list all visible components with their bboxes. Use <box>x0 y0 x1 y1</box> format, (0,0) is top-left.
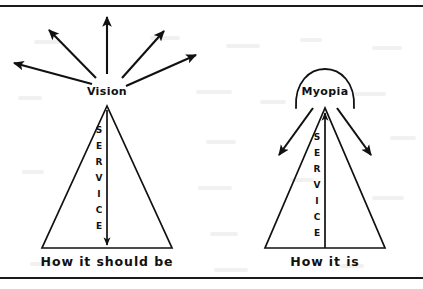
service-letter: I <box>315 196 318 206</box>
service-letter: E <box>96 221 102 231</box>
service-label-left: S E R V I C E <box>96 125 103 231</box>
vision-label: Vision <box>87 85 127 98</box>
myopia-label: Myopia <box>301 85 348 98</box>
panel-left: Vision S E R V I C E How it should be <box>14 17 196 269</box>
service-label-right: S E R V I C E <box>314 132 321 238</box>
service-letter: R <box>96 157 103 167</box>
service-letter: I <box>97 189 100 199</box>
service-letter: C <box>96 205 103 215</box>
panel-right: Myopia S E R V I C E How it is <box>265 69 385 269</box>
service-letter: V <box>96 173 103 183</box>
diagram-canvas: Vision S E R V I C E How it should be <box>0 0 423 289</box>
service-letter: E <box>314 148 320 158</box>
service-letter: C <box>314 212 321 222</box>
caption-right: How it is <box>290 254 359 269</box>
service-letter: V <box>314 180 321 190</box>
service-letter: R <box>314 164 321 174</box>
service-letter: E <box>96 141 102 151</box>
service-letter: E <box>314 228 320 238</box>
fan-arrow-far-right <box>126 55 196 86</box>
fan-arrow-far-left <box>14 63 92 84</box>
figure-root: Vision S E R V I C E How it should be <box>0 0 423 289</box>
caption-left: How it should be <box>41 254 174 269</box>
service-letter: S <box>96 125 102 135</box>
service-letter: S <box>314 132 320 142</box>
vision-fan <box>14 17 196 86</box>
paper-noise <box>18 36 416 272</box>
fan-arrow-left <box>49 30 96 78</box>
